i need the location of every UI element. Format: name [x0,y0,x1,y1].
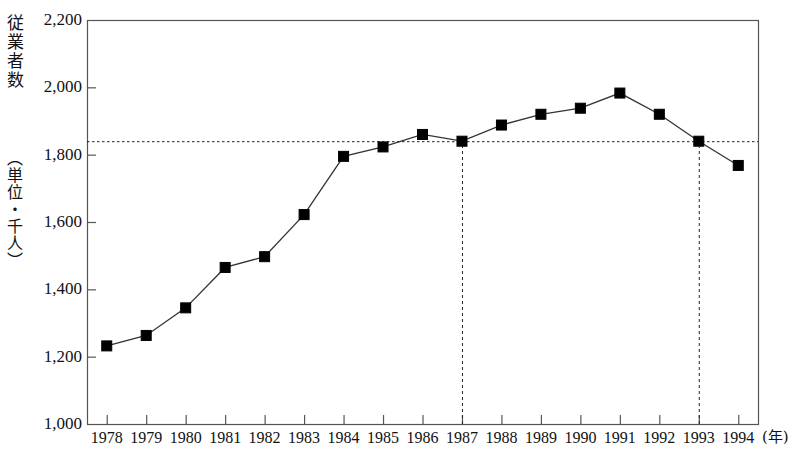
y-axis-label-1200: 1,200 [10,348,82,365]
data-point-1978 [102,341,112,351]
plot-area [0,0,797,464]
y-axis-label-1400: 1,400 [10,280,82,297]
data-point-1992 [654,109,664,119]
data-point-1987 [457,136,467,146]
x-axis-unit-label: (年) [762,430,789,445]
data-point-1980 [181,303,191,313]
y-axis-label-1800: 1,800 [10,146,82,163]
data-point-1990 [575,103,585,113]
y-axis-tick-labels: 1,0001,2001,4001,6001,8002,0002,200 [10,0,82,464]
data-point-1994 [733,160,743,170]
data-point-1988 [496,120,506,130]
data-point-1982 [260,252,270,262]
data-point-1981 [220,262,230,272]
data-point-1991 [615,88,625,98]
x-axis-tick-labels: 1978197919801981198219831984198519861987… [0,430,797,460]
data-point-1993 [694,136,704,146]
data-point-1983 [299,210,309,220]
data-point-1979 [141,330,151,340]
plot-frame [88,21,759,425]
employment-line-chart: 従業者数 （単位・千人） 1,0001,2001,4001,6001,8002,… [0,0,797,464]
data-point-1985 [378,142,388,152]
data-point-1989 [536,109,546,119]
data-point-1984 [339,151,349,161]
y-axis-label-1600: 1,600 [10,213,82,230]
plot-frame-rect [88,21,759,425]
data-point-1986 [418,129,428,139]
y-axis-label-2000: 2,000 [10,78,82,95]
x-axis-label-1994: 1994 [715,430,761,446]
y-axis-label-2200: 2,200 [10,11,82,28]
